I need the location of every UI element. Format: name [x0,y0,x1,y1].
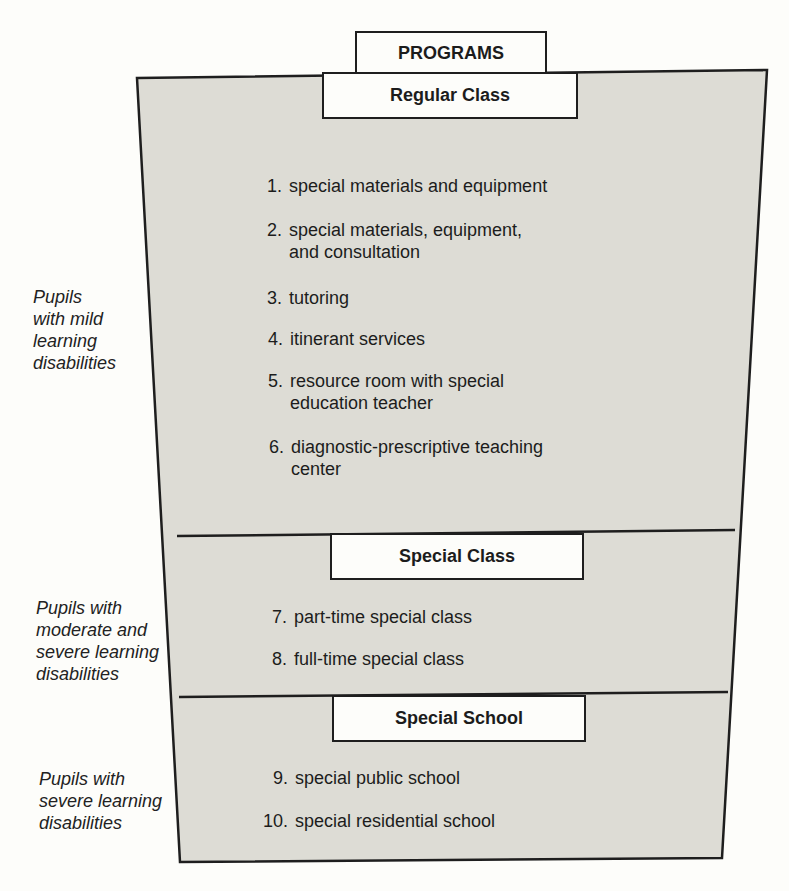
program-item-10: 10. special residential school [256,810,495,832]
programs-title: PROGRAMS [398,43,504,64]
program-item-5: 5. resource room with special education … [251,370,504,414]
side-label-moderate-severe: Pupils with moderate and severe learning… [36,597,159,685]
side-label-severe: Pupils with severe learning disabilities [39,768,162,834]
side-label-mild: Pupils with mild learning disabilities [33,286,116,374]
program-item-7: 7. part-time special class [255,606,472,628]
program-item-3: 3. tutoring [250,287,349,309]
program-item-8: 8. full-time special class [255,648,464,670]
program-item-4: 4. itinerant services [251,328,425,350]
programs-title-box: PROGRAMS [355,31,547,76]
program-item-9: 9. special public school [256,767,460,789]
section-header-regular-class: Regular Class [322,72,578,119]
section-header-special-school: Special School [332,695,586,742]
program-item-1: 1. special materials and equipment [250,175,547,197]
program-item-2: 2. special materials, equipment, and con… [250,219,522,263]
program-item-6: 6. diagnostic-prescriptive teaching cent… [252,436,543,480]
section-header-special-class: Special Class [330,533,584,580]
